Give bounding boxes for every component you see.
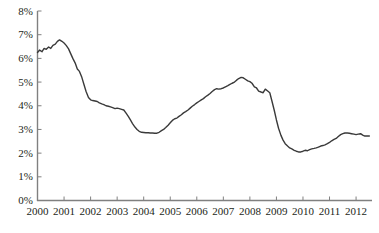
- plot-area: [0, 0, 379, 233]
- x-tick-label: 2000: [27, 205, 49, 217]
- x-tick-label: 2002: [80, 205, 102, 217]
- x-tick-label: 2005: [159, 205, 181, 217]
- x-axis-tick-labels: 2000200120022003200420052006200720082009…: [0, 205, 379, 223]
- x-tick-label: 2011: [319, 205, 341, 217]
- x-tick-label: 2012: [345, 205, 367, 217]
- x-tick-label: 2010: [292, 205, 314, 217]
- x-tick-label: 2001: [53, 205, 75, 217]
- x-tick-label: 2006: [186, 205, 208, 217]
- x-tick-label: 2009: [265, 205, 287, 217]
- data-line-rate: [38, 40, 370, 152]
- axis-lines: [37, 11, 372, 201]
- x-tick-label: 2003: [106, 205, 128, 217]
- x-tick-label: 2004: [133, 205, 155, 217]
- x-tick-label: 2008: [239, 205, 261, 217]
- chart-container: 8% 7% 6% 5% 4% 3% 2% 1% 0% 2000200120022…: [0, 0, 379, 233]
- x-tick-label: 2007: [212, 205, 234, 217]
